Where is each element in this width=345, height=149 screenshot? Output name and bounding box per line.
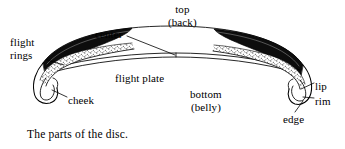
label-rim: rim (315, 95, 331, 107)
label-center-text: center (95, 28, 122, 40)
label-center: center (95, 28, 122, 40)
label-flight-rings: flight rings (10, 36, 34, 61)
leader-center (127, 36, 175, 55)
leader-edge (295, 101, 303, 112)
label-flight-rings-line2: rings (10, 49, 34, 62)
label-lip: lip (315, 80, 327, 92)
label-edge-text: edge (283, 113, 304, 125)
label-cheek-text: cheek (68, 94, 94, 106)
label-cheek: cheek (68, 94, 94, 106)
label-top-line2: (back) (168, 16, 197, 29)
label-lip-text: lip (315, 80, 327, 92)
label-top-line1: top (175, 3, 189, 15)
label-rim-text: rim (315, 95, 331, 107)
label-edge: edge (283, 113, 304, 125)
figure-caption: The parts of the disc. (27, 128, 128, 140)
label-flight-plate: flight plate (115, 72, 164, 84)
label-flight-rings-line1: flight (10, 36, 34, 48)
label-bottom-line1: bottom (190, 88, 222, 100)
figure-container: flight rings center top (back) flight pl… (0, 0, 345, 149)
label-bottom-belly: bottom (belly) (190, 88, 222, 113)
label-top-back: top (back) (168, 3, 197, 28)
label-flight-plate-text: flight plate (115, 72, 164, 84)
label-bottom-line2: (belly) (190, 101, 222, 114)
